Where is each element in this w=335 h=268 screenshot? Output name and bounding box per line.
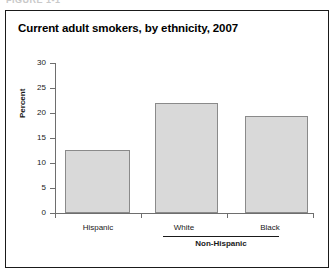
y-tick-label-5: 5	[42, 184, 46, 192]
y-tick-25	[50, 88, 55, 89]
y-tick-15	[50, 138, 55, 139]
x-axis-line	[55, 213, 314, 214]
y-tick-label-25: 25	[37, 84, 46, 92]
x-tick-2	[227, 214, 228, 218]
bar-black	[245, 116, 308, 213]
y-tick-label-15: 15	[37, 134, 46, 142]
y-tick-label-0: 0	[42, 209, 46, 217]
x-label-black: Black	[227, 223, 313, 232]
y-tick-5	[50, 188, 55, 189]
bar-white	[155, 103, 218, 213]
y-tick-30	[50, 63, 55, 64]
y-tick-20	[50, 113, 55, 114]
y-axis-line	[55, 63, 56, 214]
x-label-white: White	[141, 223, 227, 232]
x-tick-1	[141, 214, 142, 218]
y-tick-10	[50, 163, 55, 164]
x-tick-0	[55, 214, 56, 218]
y-axis-title: Percent	[18, 89, 27, 118]
non-hispanic-group-label: Non-Hispanic	[163, 239, 279, 248]
y-tick-label-10: 10	[37, 159, 46, 167]
x-label-hispanic: Hispanic	[55, 223, 141, 232]
y-tick-label-30: 30	[37, 59, 46, 67]
y-tick-label-20: 20	[37, 109, 46, 117]
non-hispanic-bracket	[163, 236, 279, 237]
bar-hispanic	[65, 150, 130, 213]
x-tick-3	[313, 214, 314, 218]
